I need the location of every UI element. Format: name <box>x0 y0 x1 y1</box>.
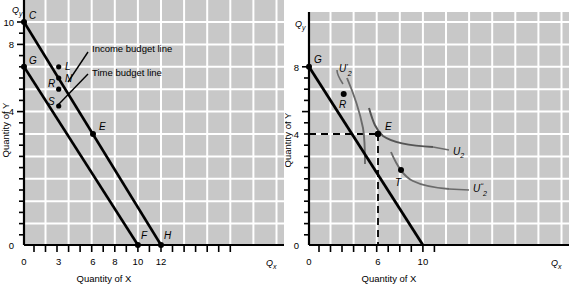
y-tick-label-4: 4 <box>294 129 299 140</box>
point-label-F: F <box>141 230 148 241</box>
point-label-R: R <box>339 99 346 110</box>
x-tick-label-6: 6 <box>375 256 380 267</box>
point-label-E: E <box>385 121 392 132</box>
x-tick-label-12: 12 <box>156 256 167 267</box>
point-marker-E <box>375 131 381 137</box>
point-marker-G <box>306 64 312 70</box>
y-tick-label-10: 10 <box>3 17 14 28</box>
y-tick-label-0: 0 <box>9 240 14 251</box>
point-marker-T <box>398 167 404 173</box>
y-tick-label-8: 8 <box>294 62 299 73</box>
point-label-C: C <box>29 10 37 21</box>
y-axis-title: Quantity of Y <box>285 112 293 167</box>
point-label-S: S <box>48 96 55 107</box>
point-marker-H <box>158 242 164 248</box>
x-tick-label-6: 6 <box>90 256 95 267</box>
point-label-N: N <box>65 73 73 84</box>
point-label-E: E <box>99 121 106 132</box>
x-tick-label-8: 8 <box>112 256 117 267</box>
x-axis-title: Quantity of X <box>362 273 418 284</box>
point-marker-L <box>56 64 61 69</box>
right-panel-svg: G R E T U'2 U2 Uʺ2 8 4 0 0 6 10 Qy Qx Qu… <box>285 0 569 286</box>
y-tick-label-8: 8 <box>9 39 14 50</box>
x-axis-variable-label: Qx <box>551 258 562 270</box>
point-marker-G <box>21 64 27 70</box>
point-marker-R <box>56 87 61 92</box>
x-tick-label-3: 3 <box>56 256 61 267</box>
x-tick-label-0: 0 <box>306 256 311 267</box>
y-tick-label-0: 0 <box>294 240 299 251</box>
point-label-H: H <box>164 230 172 241</box>
point-marker-E <box>90 131 96 137</box>
point-label-T: T <box>395 177 402 188</box>
x-tick-label-10: 10 <box>133 256 144 267</box>
x-tick-label-0: 0 <box>21 256 26 267</box>
y-axis-title: Quantity of Y <box>0 102 11 157</box>
point-marker-S <box>56 103 61 108</box>
time-budget-line-label: Time budget line <box>92 67 162 78</box>
point-label-L: L <box>65 61 71 72</box>
chart-panel-right: G R E T U'2 U2 Uʺ2 8 4 0 0 6 10 Qy Qx Qu… <box>285 0 569 286</box>
point-marker-N <box>56 75 61 80</box>
point-label-G: G <box>314 54 322 65</box>
point-label-R: R <box>48 78 55 89</box>
point-marker-C <box>21 19 27 25</box>
x-axis-variable-label: Qx <box>266 258 277 270</box>
point-marker-R <box>341 91 347 97</box>
plot-background <box>24 0 284 245</box>
y-axis-variable-label: Qy <box>295 19 306 32</box>
figure-root: C G L N R S E F H Income budget line Tim… <box>0 0 569 286</box>
point-marker-F <box>135 242 141 248</box>
left-panel-svg: C G L N R S E F H Income budget line Tim… <box>0 0 284 286</box>
chart-panel-left: C G L N R S E F H Income budget line Tim… <box>0 0 284 286</box>
income-budget-line-label: Income budget line <box>92 43 172 54</box>
point-label-G: G <box>29 55 37 66</box>
x-tick-label-10: 10 <box>418 256 429 267</box>
x-axis-title: Quantity of X <box>77 273 133 284</box>
